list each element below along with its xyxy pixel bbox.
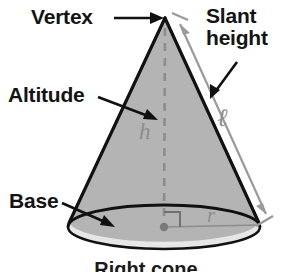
slant-tick-top <box>172 13 188 20</box>
label-vertex: Vertex <box>31 6 93 28</box>
figure-caption: Right cone <box>0 258 292 272</box>
label-slant-height-line1: Slant <box>206 4 256 27</box>
symbol-slant-height: ℓ <box>217 104 227 132</box>
vertex-arrow <box>114 12 164 24</box>
symbol-height: h <box>139 119 151 145</box>
label-slant-height: Slantheight <box>206 5 268 49</box>
base-center-dot <box>160 223 168 231</box>
slant-height-arrow <box>210 62 237 99</box>
slant-measure-arrow-top <box>180 24 190 35</box>
label-altitude: Altitude <box>8 84 85 106</box>
symbol-radius: r <box>207 203 215 228</box>
label-slant-height-line2: height <box>206 26 268 49</box>
label-base: Base <box>9 190 58 212</box>
slant-measure-arrow-bottom <box>256 203 266 214</box>
